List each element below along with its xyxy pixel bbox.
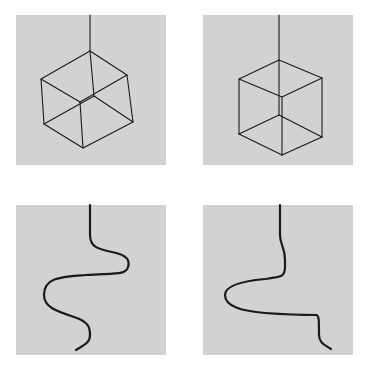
panel-bottom-right bbox=[203, 205, 353, 355]
loop-curve-figure bbox=[203, 205, 353, 355]
panel-top-left bbox=[16, 15, 166, 165]
s-curve-figure bbox=[16, 205, 166, 355]
panel-top-right bbox=[203, 15, 353, 165]
hanging-cube-frontal-figure bbox=[203, 15, 353, 165]
hanging-cube-rotated-figure bbox=[16, 15, 166, 165]
panel-bottom-left bbox=[16, 205, 166, 355]
